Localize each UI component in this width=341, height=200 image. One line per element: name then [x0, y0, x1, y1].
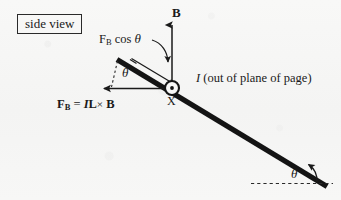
equation-equals: = — [70, 97, 83, 111]
magnetic-field-label: B — [172, 6, 181, 19]
force-component-label: FB cos θ — [99, 32, 141, 47]
equation-length: L — [89, 97, 97, 111]
dashed-reference-line — [112, 61, 118, 87]
physics-diagram-figure: side view FB cos θ B I (out of plane of … — [0, 0, 341, 200]
equation-field: B — [106, 97, 114, 111]
current-description: (out of plane of page) — [200, 71, 311, 85]
force-component-suffix: cos — [112, 32, 135, 46]
force-component-pointer — [152, 40, 168, 62]
force-component-angle: θ — [135, 31, 141, 46]
rod-angle-label: θ — [122, 66, 128, 79]
cross-mark-label: X — [167, 95, 176, 107]
force-component-prefix: F — [99, 32, 106, 46]
current-dot-icon — [170, 86, 174, 90]
side-view-caption-box: side view — [17, 14, 82, 34]
force-equation-label: FB = IL× B — [57, 98, 115, 112]
equation-force: F — [57, 97, 65, 111]
equation-cross: × — [97, 98, 103, 110]
side-view-label: side view — [25, 16, 74, 31]
current-label: I (out of plane of page) — [196, 72, 312, 85]
incline-angle-label: θ — [291, 167, 297, 180]
